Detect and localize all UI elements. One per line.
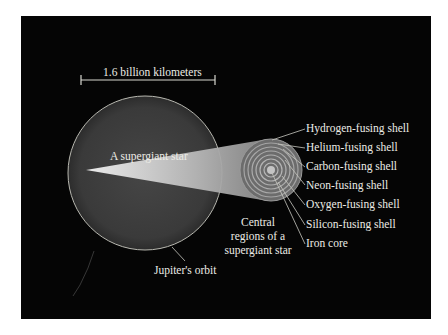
shell-label-neon: Neon-fusing shell <box>306 179 388 192</box>
core-caption-line-1: Central <box>238 216 278 229</box>
core-caption-line-2: regions of a <box>228 230 288 243</box>
orbit-label: Jupiter's orbit <box>154 264 216 277</box>
shell-label-carbon: Carbon-fusing shell <box>306 160 397 173</box>
star-label: A supergiant star <box>110 150 188 163</box>
shell-label-hydrogen: Hydrogen-fusing shell <box>306 122 409 135</box>
scale-bar-label: 1.6 billion kilometers <box>103 66 202 79</box>
shell-label-oxygen: Oxygen-fusing shell <box>306 198 400 211</box>
shell-label-iron-core: Iron core <box>306 237 348 250</box>
stray-streak <box>73 251 94 296</box>
core-caption-line-3: supergiant star <box>220 244 296 257</box>
shell-label-helium: Helium-fusing shell <box>306 141 398 154</box>
shell-label-silicon: Silicon-fusing shell <box>306 218 396 231</box>
